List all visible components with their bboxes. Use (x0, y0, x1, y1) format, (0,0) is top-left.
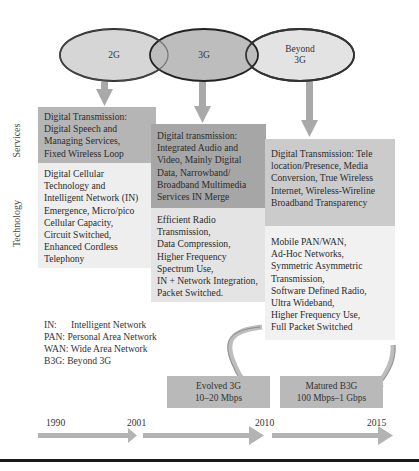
speed-box-matured-b3g: Matured B3G100 Mbps–1 Gbps (280, 376, 383, 408)
bottom-rule (0, 459, 419, 462)
services-box-3g: Digital transmission:Integrated Audio an… (151, 124, 266, 208)
arrow-3g-down (194, 82, 211, 123)
year-2001: 2001 (127, 417, 146, 428)
timeline-arrow-1990-2001 (38, 428, 137, 443)
legend-item-in: IN:Intelligent Network (44, 319, 157, 331)
row-label-technology: Technology (11, 196, 22, 252)
generation-label-beyond-3g: Beyond3G (278, 44, 322, 66)
generation-label-2g: 2G (100, 50, 128, 61)
year-2015: 2015 (367, 417, 386, 428)
legend-item-pan: PAN: Personal Area Network (44, 331, 157, 343)
services-box-2g: Digital Transmission:Digital Speech andM… (38, 107, 156, 163)
arrow-2g-down (96, 82, 113, 106)
timeline-arrow-2001-2010 (143, 426, 264, 445)
abbreviation-legend: IN:Intelligent Network PAN: Personal Are… (44, 319, 157, 367)
timeline-arrow-2010-2015 (272, 426, 393, 445)
services-box-b3g: Digital Transmission: Telelocation/Prese… (265, 139, 395, 226)
year-1990: 1990 (46, 417, 65, 428)
technology-box-2g: Digital CellularTechnology andIntelligen… (38, 163, 156, 268)
legend-item-b3g: B3G: Beyond 3G (44, 355, 157, 367)
technology-box-3g: Efficient RadioTransmission,Data Compres… (151, 208, 266, 302)
row-label-services: Services (11, 121, 22, 161)
legend-item-wan: WAN: Wide Area Network (44, 343, 157, 355)
arrow-b3g-down (301, 82, 318, 137)
technology-box-b3g: Mobile PAN/WAN,Ad-Hoc Networks,Symmetric… (265, 226, 395, 340)
year-2010: 2010 (255, 417, 274, 428)
generation-label-3g: 3G (190, 50, 218, 61)
speed-box-evolved-3g: Evolved 3G10–20 Mbps (167, 376, 270, 408)
